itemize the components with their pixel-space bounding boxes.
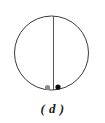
black-dot-marker [55, 84, 60, 89]
figure-caption-label: ( d ) [0, 101, 105, 117]
figure-container: ( d ) [0, 0, 105, 123]
circle-outline [15, 16, 89, 90]
gray-dot-marker [45, 85, 50, 90]
